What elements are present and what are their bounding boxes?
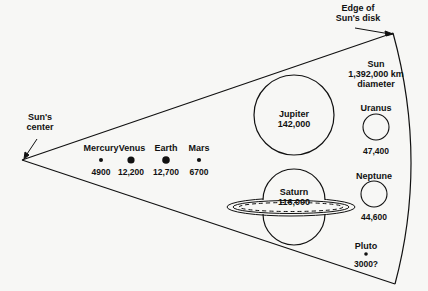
sun-edge-label: Edge of Sun's disk	[336, 3, 381, 23]
earth-dot-icon	[162, 156, 170, 164]
earth-name-label: Earth	[154, 143, 177, 153]
jupiter-label: Jupiter 142,000	[278, 109, 311, 129]
pluto-name-label: Pluto	[355, 241, 378, 251]
mercury-name-label: Mercury	[83, 143, 118, 153]
mercury-diameter-label: 4900	[92, 167, 111, 177]
venus-dot-icon	[127, 156, 134, 163]
pluto-diameter-label: 3000?	[354, 259, 378, 269]
wedge-bottom-edge	[22, 160, 395, 284]
sun-center-label: Sun's center	[26, 112, 53, 132]
solar-system-scale-diagram: Sun's center Edge of Sun's disk Sun 1,39…	[0, 0, 428, 291]
mars-name-label: Mars	[188, 143, 209, 153]
sun-edge-pointer-icon	[355, 28, 393, 36]
uranus-name-label: Uranus	[360, 103, 391, 113]
uranus-circle-icon	[363, 114, 389, 140]
pluto-dot-icon	[364, 252, 368, 256]
saturn-label: Saturn 116,000	[278, 187, 310, 207]
venus-diameter-label: 12,200	[118, 167, 144, 177]
earth-diameter-label: 12,700	[153, 167, 179, 177]
sun-diameter-label: Sun 1,392,000 km diameter	[348, 59, 404, 89]
wedge-top-edge	[22, 33, 393, 160]
mercury-dot-icon	[99, 158, 103, 162]
neptune-diameter-label: 44,600	[361, 212, 387, 222]
mars-diameter-label: 6700	[190, 167, 209, 177]
uranus-diameter-label: 47,400	[363, 146, 389, 156]
venus-name-label: Venus	[119, 143, 146, 153]
neptune-circle-icon	[361, 181, 387, 207]
neptune-name-label: Neptune	[356, 171, 392, 181]
mars-dot-icon	[197, 158, 201, 162]
